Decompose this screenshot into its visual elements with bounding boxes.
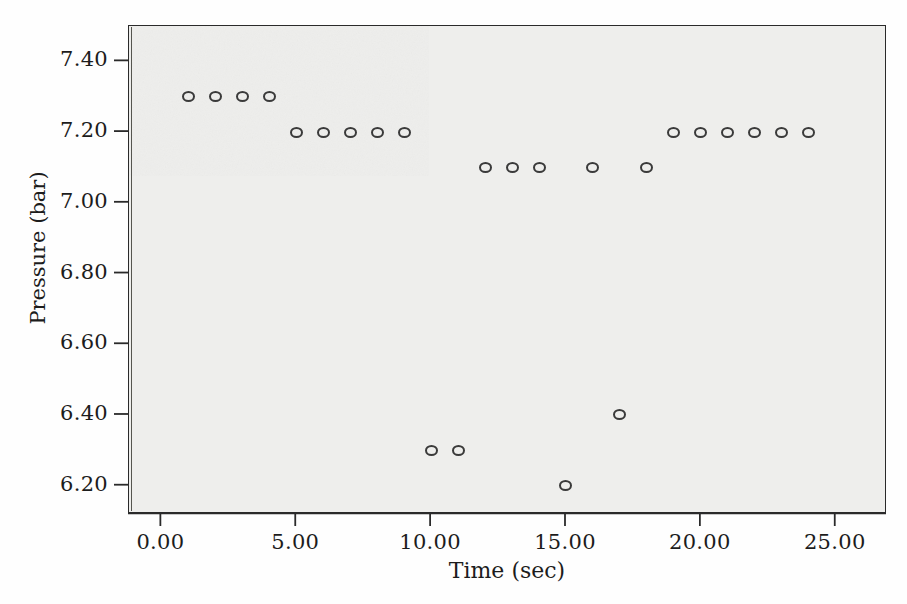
y-tick-label: 6.40 xyxy=(0,401,108,425)
data-point-marker xyxy=(182,91,195,102)
x-tick-label: 25.00 xyxy=(775,530,895,554)
data-point-marker xyxy=(371,127,384,138)
data-point-marker xyxy=(775,127,788,138)
y-tick-label: 6.20 xyxy=(0,472,108,496)
y-tick-label: 6.80 xyxy=(0,260,108,284)
y-tick-label: 7.40 xyxy=(0,47,108,71)
data-point-marker xyxy=(667,127,680,138)
x-tick-label: 0.00 xyxy=(100,530,220,554)
data-point-marker xyxy=(236,91,249,102)
data-point-marker xyxy=(317,127,330,138)
data-point-marker xyxy=(748,127,761,138)
paper-texture xyxy=(129,26,429,176)
data-point-marker xyxy=(559,480,572,491)
x-tick-label: 15.00 xyxy=(505,530,625,554)
plot-area xyxy=(128,25,886,513)
data-point-marker xyxy=(640,162,653,173)
data-point-marker xyxy=(290,127,303,138)
data-point-marker xyxy=(452,445,465,456)
y-tick-label: 7.00 xyxy=(0,189,108,213)
x-tick-label: 20.00 xyxy=(640,530,760,554)
data-point-marker xyxy=(802,127,815,138)
data-point-marker xyxy=(479,162,492,173)
data-point-marker xyxy=(533,162,546,173)
x-tick-label: 10.00 xyxy=(370,530,490,554)
data-point-marker xyxy=(263,91,276,102)
scatter-plot-figure: 7.407.207.006.806.606.406.20 0.005.0010.… xyxy=(0,0,907,604)
data-point-marker xyxy=(586,162,599,173)
y-tick-label: 6.60 xyxy=(0,330,108,354)
data-point-marker xyxy=(506,162,519,173)
data-point-marker xyxy=(209,91,222,102)
y-tick-label: 7.20 xyxy=(0,118,108,142)
data-point-marker xyxy=(721,127,734,138)
y-axis-title: Pressure (bar) xyxy=(26,148,50,348)
data-point-marker xyxy=(425,445,438,456)
data-point-marker xyxy=(694,127,707,138)
x-tick-label: 5.00 xyxy=(235,530,355,554)
x-axis-title: Time (sec) xyxy=(128,558,886,583)
data-point-marker xyxy=(613,409,626,420)
data-point-marker xyxy=(344,127,357,138)
data-point-marker xyxy=(398,127,411,138)
